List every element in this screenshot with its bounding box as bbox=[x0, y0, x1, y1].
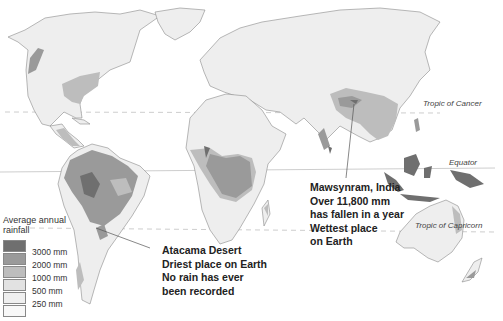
tropic-of-capricorn-label: Tropic of Capricorn bbox=[415, 221, 482, 230]
legend-label: 3000 mm bbox=[32, 247, 67, 257]
legend-item: 3000 mm bbox=[3, 239, 67, 252]
atacama-line: Driest place on Earth bbox=[162, 258, 267, 272]
australia bbox=[396, 200, 482, 282]
north-america bbox=[8, 8, 205, 148]
legend-items: 3000 mm2000 mm1000 mm500 mm250 mm bbox=[3, 239, 67, 317]
mawsynram-line: on Earth bbox=[310, 235, 404, 249]
mawsynram-line: Over 11,800 mm bbox=[310, 195, 404, 209]
legend-swatch bbox=[3, 305, 26, 317]
atacama-callout: Atacama Desert Driest place on Earth No … bbox=[162, 244, 267, 298]
legend-label: 1000 mm bbox=[32, 273, 67, 283]
legend-label: 250 mm bbox=[32, 299, 63, 309]
legend-swatch bbox=[3, 253, 26, 265]
atacama-line: been recorded bbox=[162, 285, 267, 299]
south-america bbox=[58, 144, 150, 304]
atacama-line: No rain has ever bbox=[162, 271, 267, 285]
legend-title: Average annual rainfall bbox=[3, 215, 67, 235]
legend-title-line: rainfall bbox=[3, 225, 67, 235]
legend-label: 500 mm bbox=[32, 286, 63, 296]
mawsynram-title: Mawsynram, India bbox=[310, 181, 404, 195]
legend-swatch bbox=[3, 240, 26, 252]
legend-label: 2000 mm bbox=[32, 260, 67, 270]
tropic-of-cancer-label: Tropic of Cancer bbox=[423, 99, 482, 108]
atacama-title: Atacama Desert bbox=[162, 244, 267, 258]
legend-swatch bbox=[3, 279, 26, 291]
mawsynram-line: has fallen in a year bbox=[310, 208, 404, 222]
mawsynram-line: Wettest place bbox=[310, 222, 404, 236]
rainfall-legend: Average annual rainfall 3000 mm2000 mm10… bbox=[3, 215, 67, 317]
equator-label: Equator bbox=[449, 158, 477, 167]
legend-swatch bbox=[3, 266, 26, 278]
mawsynram-callout: Mawsynram, India Over 11,800 mm has fall… bbox=[310, 181, 404, 249]
africa bbox=[186, 94, 286, 244]
legend-title-line: Average annual bbox=[3, 215, 67, 225]
legend-swatch bbox=[3, 292, 26, 304]
